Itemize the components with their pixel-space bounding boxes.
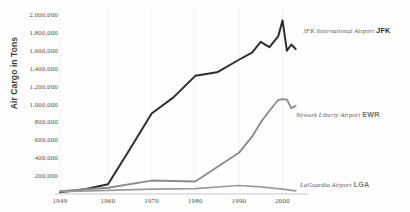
y-tick-600000: 600,000	[14, 136, 58, 143]
air-cargo-line-chart: 200,000400,000600,000800,0001,000,0001,2…	[0, 0, 410, 212]
series-label-lga: LaGuardia AirportLGA	[300, 180, 370, 189]
y-tick-1200000: 1,200,000	[14, 83, 58, 90]
y-tick-1600000: 1,600,000	[14, 47, 58, 54]
y-tick-2000000: 2,000,000	[14, 11, 58, 18]
x-tick-2000: 2000	[275, 197, 290, 204]
y-tick-1800000: 1,800,000	[14, 29, 58, 36]
series-label-jfk-name: JFK International Airport	[303, 27, 374, 34]
series-label-lga-name: LaGuardia Airport	[300, 181, 352, 188]
x-tick-1970: 1970	[144, 197, 159, 204]
y-tick-800000: 800,000	[14, 118, 58, 125]
series-lines	[60, 20, 296, 192]
y-tick-400000: 400,000	[14, 154, 58, 161]
series-label-ewr-name: Newark Liberty Airport	[296, 111, 360, 118]
y-axis-title: Air Cargo in Tons	[9, 13, 19, 133]
series-label-jfk: JFK International AirportJFK	[303, 26, 390, 35]
y-tick-1000000: 1,000,000	[14, 101, 58, 108]
series-label-lga-code: LGA	[354, 180, 370, 189]
x-tick-1949: 1949	[53, 197, 68, 204]
vertical-gridlines	[60, 8, 283, 194]
x-tick-1980: 1980	[188, 197, 203, 204]
y-tick-200000: 200,000	[14, 172, 58, 179]
series-label-jfk-code: JFK	[376, 26, 390, 35]
series-line-ewr	[60, 99, 296, 191]
x-tick-1960: 1960	[101, 197, 116, 204]
x-tick-1990: 1990	[232, 197, 247, 204]
series-label-ewr-code: EWR	[362, 110, 379, 119]
series-label-ewr: Newark Liberty AirportEWR	[296, 110, 380, 119]
series-line-jfk	[60, 20, 296, 192]
y-tick-1400000: 1,400,000	[14, 65, 58, 72]
